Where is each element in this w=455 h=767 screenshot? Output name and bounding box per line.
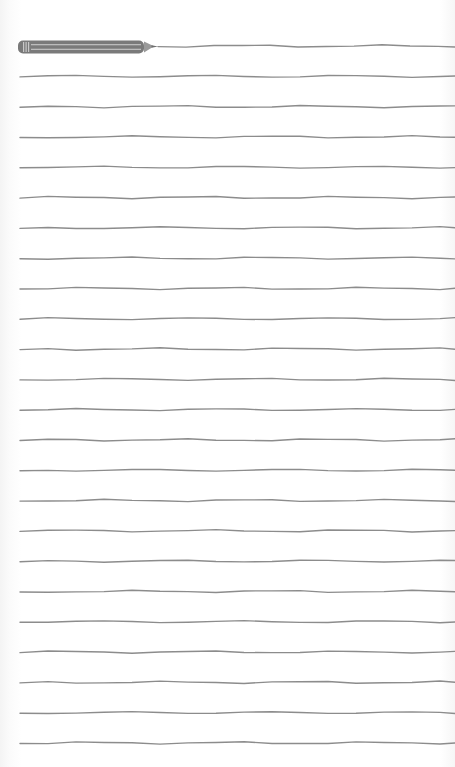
ruled-line [20, 287, 455, 289]
ruled-line [20, 75, 455, 77]
notebook-page [0, 0, 455, 767]
ruled-line [20, 651, 455, 653]
ruled-line [20, 318, 455, 320]
ruled-line [158, 45, 455, 47]
ruled-line [20, 712, 455, 714]
ruled-line [20, 469, 455, 471]
pencil-icon [18, 40, 158, 54]
ruled-line [20, 742, 455, 744]
ruled-line [20, 560, 455, 562]
ruled-line [20, 378, 455, 380]
ruled-line [20, 499, 455, 501]
ruled-line [20, 166, 455, 168]
ruled-line [20, 196, 455, 198]
ruled-line [20, 621, 455, 623]
ruled-line [20, 681, 455, 683]
ruled-line [20, 530, 455, 532]
ruled-line [20, 590, 455, 592]
ruled-line [20, 439, 455, 441]
ruled-line [20, 227, 455, 229]
ruled-line [20, 106, 455, 108]
ruled-line [20, 257, 455, 259]
ruled-line [20, 136, 455, 138]
ruled-lines [0, 0, 455, 767]
ruled-line [20, 408, 455, 410]
ruled-line [20, 348, 455, 350]
